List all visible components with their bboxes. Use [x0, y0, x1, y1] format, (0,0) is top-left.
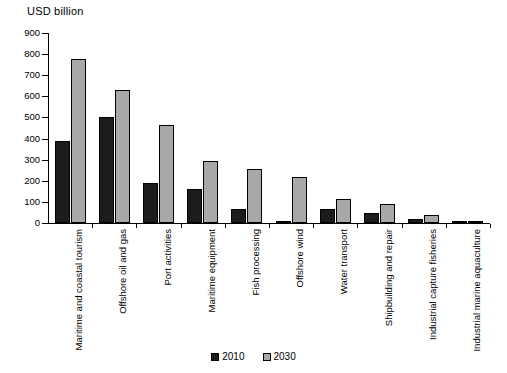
bar-2030 [292, 177, 307, 223]
bar-2030 [424, 215, 439, 223]
x-axis-tick-mark [402, 224, 403, 228]
bar-2030 [203, 161, 218, 223]
legend-label: 2010 [222, 351, 244, 362]
x-axis-tick-mark [490, 224, 491, 228]
y-axis-tick-label: 400 [0, 134, 40, 144]
y-axis-tick-label: 0 [0, 218, 40, 228]
x-axis-tick-mark [92, 224, 93, 228]
legend-item[interactable]: 2030 [263, 351, 296, 362]
x-axis-category-label: Port activities [163, 229, 173, 286]
bar-chart: USD billion 0100200300400500600700800900… [0, 0, 507, 373]
bar-2030 [71, 59, 86, 223]
legend-item[interactable]: 2010 [211, 351, 244, 362]
bar-2010 [320, 209, 335, 223]
bar-group [276, 33, 307, 223]
bar-group [408, 33, 439, 223]
x-axis-tick-mark [446, 224, 447, 228]
y-axis-tick-label: 800 [0, 49, 40, 59]
bar-2010 [364, 213, 379, 223]
x-axis-category-label: Industrial capture fisheries [428, 229, 438, 340]
bar-2030 [247, 169, 262, 223]
chart-title: USD billion [27, 5, 84, 17]
y-axis-tick-labels: 0100200300400500600700800900 [0, 33, 40, 224]
bar-group [187, 33, 218, 223]
bar-2030 [336, 199, 351, 223]
bar-2010 [231, 209, 246, 223]
bar-group [364, 33, 395, 223]
x-axis-category-label: Industrial marine aquaculture [472, 229, 482, 352]
bar-group [143, 33, 174, 223]
x-axis-category-label: Fish processing [251, 229, 261, 296]
legend-swatch [263, 353, 271, 361]
x-axis-tick-mark [225, 224, 226, 228]
y-axis-tick-label: 900 [0, 28, 40, 38]
bar-2010 [143, 183, 158, 223]
bar-group [231, 33, 262, 223]
bar-group [320, 33, 351, 223]
y-axis-tick-label: 200 [0, 176, 40, 186]
legend-swatch [211, 353, 219, 361]
chart-legend: 20102030 [0, 351, 507, 362]
bar-2010 [276, 221, 291, 223]
x-axis-tick-mark [357, 224, 358, 228]
bar-2010 [408, 219, 423, 223]
bar-2030 [380, 204, 395, 223]
y-axis-tick-label: 600 [0, 91, 40, 101]
x-axis-category-label: Maritime equipment [207, 229, 217, 312]
y-axis-tick-label: 700 [0, 70, 40, 80]
x-axis-category-label: Offshore wind [295, 229, 305, 287]
x-axis-tick-mark [313, 224, 314, 228]
x-axis-tick-mark [181, 224, 182, 228]
bar-2010 [99, 117, 114, 223]
x-axis-category-label: Shipbuilding and repair [384, 229, 394, 326]
y-axis-tick-label: 500 [0, 112, 40, 122]
bar-2030 [115, 90, 130, 223]
y-axis-tick-label: 300 [0, 155, 40, 165]
x-axis-tick-mark [136, 224, 137, 228]
bar-2010 [452, 221, 467, 223]
x-axis-tick-mark [269, 224, 270, 228]
bar-2010 [55, 141, 70, 223]
bars-layer [48, 33, 490, 223]
bar-group [99, 33, 130, 223]
x-axis-category-label: Offshore oil and gas [118, 229, 128, 314]
legend-label: 2030 [274, 351, 296, 362]
bar-2030 [159, 125, 174, 223]
bar-2010 [187, 189, 202, 223]
x-axis-category-labels: Maritime and coastal tourismOffshore oil… [48, 229, 490, 369]
x-axis-category-label: Water transport [339, 229, 349, 294]
x-axis-category-label: Maritime and coastal tourism [74, 229, 84, 350]
bar-group [55, 33, 86, 223]
bar-2030 [468, 221, 483, 223]
y-axis-tick-label: 100 [0, 197, 40, 207]
bar-group [452, 33, 483, 223]
